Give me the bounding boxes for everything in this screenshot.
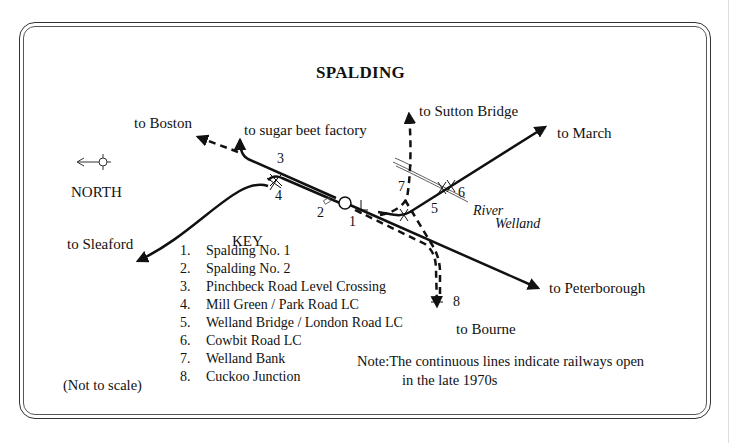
map-title: SPALDING (316, 63, 405, 83)
line-sugar-beet (240, 140, 336, 198)
marker-8: 8 (453, 295, 460, 309)
label-to-peterborough: to Peterborough (549, 281, 645, 296)
spalding-station (339, 197, 351, 209)
label-to-march: to March (557, 126, 612, 141)
line-boston-dashed (198, 137, 238, 152)
key-item: 4.Mill Green / Park Road LC (180, 296, 403, 314)
marker-7: 7 (398, 180, 405, 194)
key-item: 2.Spalding No. 2 (180, 260, 403, 278)
label-to-boston: to Boston (134, 116, 192, 131)
marker-3: 3 (277, 152, 284, 166)
marker-2: 2 (317, 206, 324, 220)
note: Note:The continuous lines indicate railw… (357, 352, 644, 390)
label-to-bourne: to Bourne (456, 322, 516, 337)
label-to-sugar-beet: to sugar beet factory (244, 123, 367, 138)
river-label-line2: Welland (495, 217, 540, 231)
signal-box-2 (323, 198, 330, 204)
north-arrow-icon (77, 154, 111, 170)
note-line1: Note:The continuous lines indicate railw… (357, 352, 644, 371)
key-item: 1.Spalding No. 1 (180, 242, 403, 260)
north-label: NORTH (71, 185, 122, 200)
key-item: 5.Welland Bridge / London Road LC (180, 314, 403, 332)
scale-note: (Not to scale) (63, 378, 142, 393)
marker-5: 5 (431, 202, 438, 216)
key-item: 6.Cowbit Road LC (180, 332, 403, 350)
label-to-sleaford: to Sleaford (67, 237, 133, 252)
note-line2: in the late 1970s (357, 371, 644, 390)
marker-1: 1 (349, 215, 356, 229)
marker-4: 4 (275, 189, 282, 203)
key-item: 3.Pinchbeck Road Level Crossing (180, 278, 403, 296)
label-to-sutton-bridge: to Sutton Bridge (419, 104, 518, 119)
marker-6: 6 (458, 186, 465, 200)
